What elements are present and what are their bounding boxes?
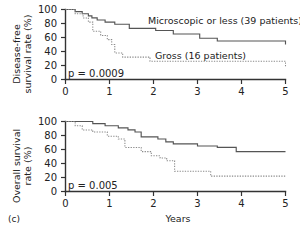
y-tick-label-bottom-80: 80 <box>44 130 57 141</box>
x-tick-label-bottom-1: 1 <box>106 198 112 209</box>
x-tick-labels-bottom: 0 1 2 3 4 5 <box>62 198 288 209</box>
panel-label: (c) <box>8 214 20 224</box>
x-tick-label-top-3: 3 <box>194 86 200 97</box>
y-tick-labels-bottom: 100 80 60 40 20 0 <box>38 116 57 197</box>
figure-panel-c: Disease-free survival rate (%) 100 80 60… <box>0 0 300 234</box>
p-value-disease-free: p = 0.0009 <box>68 68 124 79</box>
y-tick-label-top-60: 60 <box>44 32 57 43</box>
chart-overall-survival: Overall survival rate (%) 100 80 60 40 2… <box>11 116 289 224</box>
y-tick-label-bottom-100: 100 <box>38 116 57 127</box>
y-axis-title-top-line1: Disease-free <box>11 24 22 84</box>
y-tick-label-top-100: 100 <box>38 4 57 15</box>
y-axis-title-top-line2: survival rate (%) <box>22 15 33 94</box>
x-tick-label-bottom-4: 4 <box>238 198 244 209</box>
x-tick-label-bottom-3: 3 <box>194 198 200 209</box>
p-value-overall: p = 0.005 <box>68 180 118 191</box>
x-tick-label-top-4: 4 <box>238 86 244 97</box>
y-tick-label-bottom-20: 20 <box>44 172 57 183</box>
y-tick-label-top-20: 20 <box>44 60 57 71</box>
x-tick-label-bottom-5: 5 <box>282 198 288 209</box>
y-tick-label-top-0: 0 <box>51 74 57 85</box>
x-tick-label-top-0: 0 <box>62 86 68 97</box>
x-tick-label-top-5: 5 <box>282 86 288 97</box>
x-tick-label-bottom-2: 2 <box>150 198 156 209</box>
curve-gross-overall <box>66 122 286 177</box>
x-tick-label-top-1: 1 <box>106 86 112 97</box>
y-tick-label-top-40: 40 <box>44 46 57 57</box>
x-axis-title: Years <box>164 213 190 224</box>
x-tick-labels-top: 0 1 2 3 4 5 <box>62 86 288 97</box>
y-tick-label-bottom-0: 0 <box>51 186 57 197</box>
y-tick-label-top-80: 80 <box>44 18 57 29</box>
y-tick-label-bottom-40: 40 <box>44 158 57 169</box>
y-axis-title-bottom-line1: Overall survival <box>11 129 22 203</box>
y-axis-title-bottom: Overall survival rate (%) <box>11 129 33 203</box>
y-axis-title-top: Disease-free survival rate (%) <box>11 15 33 94</box>
series-label-microscopic: Microscopic or less (39 patients) <box>148 15 300 26</box>
series-label-gross: Gross (16 patients) <box>155 50 246 61</box>
survival-curves-svg: Disease-free survival rate (%) 100 80 60… <box>0 0 300 234</box>
x-tick-label-bottom-0: 0 <box>62 198 68 209</box>
y-axis-title-bottom-line2: rate (%) <box>22 147 33 186</box>
y-tick-labels-top: 100 80 60 40 20 0 <box>38 4 57 85</box>
y-tick-label-bottom-60: 60 <box>44 144 57 155</box>
x-tick-label-top-2: 2 <box>150 86 156 97</box>
curve-microscopic-overall <box>66 122 286 152</box>
chart-disease-free-survival: Disease-free survival rate (%) 100 80 60… <box>11 4 300 97</box>
